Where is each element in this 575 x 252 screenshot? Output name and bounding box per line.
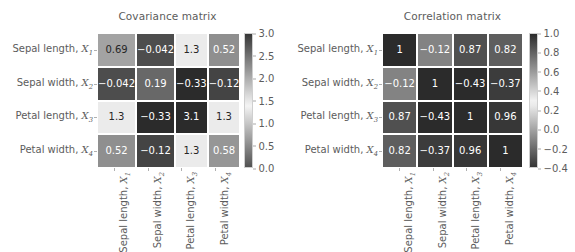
heatmap-cell-value: 0.96 bbox=[494, 112, 516, 122]
colorbar-tick-text: 0.5 bbox=[259, 140, 275, 151]
colorbar-tick-label: −0.2 bbox=[538, 143, 568, 154]
x-axis-tickmark bbox=[399, 168, 400, 171]
heatmap-cell-value: −0.37 bbox=[490, 79, 521, 89]
heatmap-cell: 0.96 bbox=[488, 101, 523, 135]
heatmap-cell-value: 0.58 bbox=[213, 146, 235, 156]
heatmap-cell-value: 0.69 bbox=[105, 45, 127, 55]
y-axis-label: Petal length, X3 bbox=[300, 110, 378, 124]
x-axis-tickmark bbox=[215, 168, 216, 171]
colorbar-tick-label: 0.0 bbox=[538, 124, 559, 135]
correlation-title: Correlation matrix bbox=[382, 10, 523, 22]
colorbar-tick-text: 2.0 bbox=[259, 73, 275, 84]
heatmap-cell: 1 bbox=[382, 33, 417, 67]
heatmap-cell: 1 bbox=[488, 134, 523, 168]
heatmap-cell: 1.3 bbox=[175, 33, 208, 67]
heatmap-cell-value: −0.042 bbox=[98, 79, 135, 89]
x-axis-label: Sepal length, X1 bbox=[403, 172, 417, 252]
heatmap-cell: 1.3 bbox=[175, 134, 208, 168]
x-axis-label: Petal width, X4 bbox=[504, 172, 518, 245]
colorbar-tick-label: 1.0 bbox=[253, 118, 274, 129]
heatmap-cell: −0.37 bbox=[417, 134, 452, 168]
y-axis-label: Sepal width, X2 bbox=[17, 77, 93, 91]
y-axis-label: Sepal length, X1 bbox=[297, 43, 378, 57]
heatmap-cell-value: 0.87 bbox=[459, 45, 481, 55]
x-axis-tickmark bbox=[148, 168, 149, 171]
x-axis-label: Sepal width, X2 bbox=[437, 172, 451, 248]
heatmap-cell-value: 0.96 bbox=[459, 146, 481, 156]
colorbar-tick-label: 0.8 bbox=[538, 47, 559, 58]
heatmap-cell-value: 0.52 bbox=[213, 45, 235, 55]
heatmap-cell-value: 0.87 bbox=[388, 112, 410, 122]
colorbar-tick-label: 2.0 bbox=[253, 73, 274, 84]
y-axis-label: Petal width, X4 bbox=[305, 144, 378, 158]
heatmap-cell: 0.82 bbox=[488, 33, 523, 67]
heatmap-cell: −0.12 bbox=[136, 134, 175, 168]
colorbar-tick-text: 0.8 bbox=[544, 47, 560, 58]
heatmap-cell: 0.87 bbox=[382, 101, 417, 135]
heatmap-cell-value: 0.19 bbox=[144, 79, 166, 89]
heatmap-cell: −0.042 bbox=[136, 33, 175, 67]
x-axis-tickmark bbox=[433, 168, 434, 171]
colorbar-tick-text: 0.0 bbox=[259, 163, 275, 174]
x-axis-label: Petal length, X3 bbox=[470, 172, 484, 250]
heatmap-cell-value: 1 bbox=[502, 146, 508, 156]
colorbar-tick-text: 1.0 bbox=[544, 28, 560, 39]
covariance-title: Covariance matrix bbox=[97, 10, 238, 22]
correlation-colorbar bbox=[529, 33, 538, 168]
heatmap-cell-value: −0.43 bbox=[420, 112, 451, 122]
y-axis-label: Sepal width, X2 bbox=[302, 77, 378, 91]
colorbar-tick-text: 3.0 bbox=[259, 28, 275, 39]
heatmap-cell-value: 0.52 bbox=[105, 146, 127, 156]
colorbar-tick-text: 0.4 bbox=[544, 85, 560, 96]
colorbar-tick-text: 0.0 bbox=[544, 124, 560, 135]
colorbar-tick-text: −0.4 bbox=[544, 163, 568, 174]
colorbar-tick-text: −0.2 bbox=[544, 143, 568, 154]
heatmap-cell-value: 1.3 bbox=[183, 146, 199, 156]
x-axis-tickmark bbox=[500, 168, 501, 171]
heatmap-cell-value: 1 bbox=[396, 45, 402, 55]
colorbar-tick-text: 1.0 bbox=[259, 118, 275, 129]
colorbar-tick-label: 0.5 bbox=[253, 140, 274, 151]
heatmap-cell-value: 1 bbox=[467, 112, 473, 122]
correlation-heatmap: 1−0.120.870.82−0.121−0.43−0.370.87−0.431… bbox=[382, 33, 523, 168]
colorbar-tick-text: 0.6 bbox=[544, 66, 560, 77]
heatmap-cell: −0.042 bbox=[97, 67, 136, 101]
heatmap-cell-value: −0.33 bbox=[176, 79, 207, 89]
heatmap-cell: 0.58 bbox=[208, 134, 241, 168]
heatmap-cell-value: −0.12 bbox=[384, 79, 415, 89]
heatmap-cell: −0.33 bbox=[175, 67, 208, 101]
heatmap-cell-value: 0.82 bbox=[388, 146, 410, 156]
colorbar-tick-label: 0.6 bbox=[538, 66, 559, 77]
heatmap-cell-value: 1.3 bbox=[109, 112, 125, 122]
heatmap-cell: 0.52 bbox=[208, 33, 241, 67]
heatmap-cell: 1 bbox=[417, 67, 452, 101]
heatmap-cell-value: 1.3 bbox=[216, 112, 232, 122]
covariance-x-axis-labels: Sepal length, X1Sepal width, X2Petal len… bbox=[97, 172, 238, 252]
heatmap-cell: 0.19 bbox=[136, 67, 175, 101]
colorbar-tick-text: 0.2 bbox=[544, 105, 560, 116]
heatmap-cell: 0.69 bbox=[97, 33, 136, 67]
x-axis-label: Petal length, X3 bbox=[185, 172, 199, 250]
colorbar-tick-label: 0.2 bbox=[538, 105, 559, 116]
colorbar-tick-label: 2.5 bbox=[253, 50, 274, 61]
heatmap-cell: −0.12 bbox=[417, 33, 452, 67]
x-axis-label: Sepal length, X1 bbox=[118, 172, 132, 252]
heatmap-cell-value: 0.82 bbox=[494, 45, 516, 55]
colorbar-tick-label: 0.4 bbox=[538, 85, 559, 96]
correlation-x-axis-labels: Sepal length, X1Sepal width, X2Petal len… bbox=[382, 172, 523, 252]
heatmap-cell: 1.3 bbox=[208, 101, 241, 135]
heatmap-cell: 0.96 bbox=[453, 134, 488, 168]
x-axis-tickmark bbox=[181, 168, 182, 171]
heatmap-cell: 3.1 bbox=[175, 101, 208, 135]
x-axis-label: Petal width, X4 bbox=[219, 172, 233, 245]
heatmap-cell: 0.52 bbox=[97, 134, 136, 168]
heatmap-cell-value: −0.12 bbox=[140, 146, 171, 156]
heatmap-cell-value: −0.12 bbox=[420, 45, 451, 55]
colorbar-tick-text: 2.5 bbox=[259, 50, 275, 61]
y-axis-label: Petal length, X3 bbox=[15, 110, 93, 124]
heatmap-cell-value: −0.43 bbox=[455, 79, 486, 89]
x-axis-label: Sepal width, X2 bbox=[152, 172, 166, 248]
colorbar-tick-text: 1.5 bbox=[259, 95, 275, 106]
heatmap-cell: −0.12 bbox=[208, 67, 241, 101]
colorbar-tick-label: 1.0 bbox=[538, 28, 559, 39]
